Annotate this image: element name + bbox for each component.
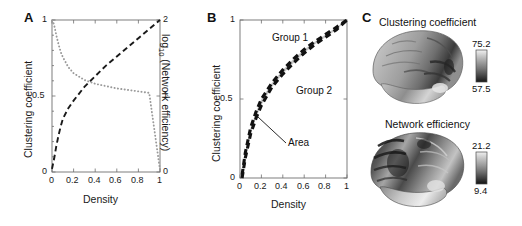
brain-map-title-clustering: Clustering coefficient bbox=[379, 16, 476, 28]
panel-b-xtick-04: 0.4 bbox=[275, 181, 288, 191]
panel-a-xlabel: Density bbox=[83, 193, 118, 205]
panel-a-ylabel-right-post: (Network efficiency) bbox=[160, 56, 172, 151]
panel-a-xtick-06: 0.6 bbox=[109, 175, 122, 185]
panel-b-label-group2: Group 2 bbox=[296, 85, 332, 96]
panel-a-ytick-right-0: 0 bbox=[163, 166, 168, 176]
brain-surface-clustering bbox=[373, 31, 463, 104]
panel-a-axes bbox=[52, 20, 160, 172]
panel-a-ylabel-right-pre: log bbox=[160, 34, 172, 48]
panel-b-axes bbox=[240, 20, 347, 178]
brain-map-title-efficiency: Network efficiency bbox=[385, 118, 470, 130]
panel-b-ylabel: Clustering coefficient bbox=[210, 65, 222, 162]
panel-b-xtick-02: 0.2 bbox=[254, 181, 267, 191]
panel-letter-c: C bbox=[362, 10, 371, 25]
panel-b-label-group1: Group 1 bbox=[272, 32, 308, 43]
colorbar-efficiency-min-label: 9.4 bbox=[474, 185, 487, 196]
panel-b-series-group1 bbox=[242, 20, 347, 175]
panel-b-area-leader-line bbox=[258, 117, 286, 143]
panel-b-xtick-0: 0 bbox=[237, 181, 242, 191]
panel-a-plot bbox=[0, 0, 522, 226]
colorbar-clustering bbox=[476, 50, 487, 82]
figure-canvas: A bbox=[0, 0, 522, 226]
panel-a-ylabel-left: Clustering coefficient bbox=[22, 61, 34, 158]
panel-b-xtick-06: 0.6 bbox=[297, 181, 310, 191]
panel-a-series-efficiency bbox=[53, 20, 161, 170]
panel-a-ytick-right-1: 1 bbox=[163, 90, 168, 100]
panel-c-brain-renders bbox=[0, 0, 522, 226]
panel-b-shaded-area bbox=[242, 20, 347, 178]
panel-a-xtick-0: 0 bbox=[49, 175, 54, 185]
panel-letter-a: A bbox=[24, 10, 33, 25]
panel-b-ytick-05: 0.5 bbox=[220, 93, 233, 103]
colorbar-clustering-min-label: 57.5 bbox=[472, 83, 491, 94]
panel-a-series-clustering bbox=[52, 20, 160, 169]
panel-b-xtick-08: 0.8 bbox=[318, 181, 331, 191]
colorbar-clustering-max-label: 75.2 bbox=[472, 38, 491, 49]
panel-b-label-area: Area bbox=[288, 137, 309, 148]
panel-a-ytick-05: 0.5 bbox=[32, 90, 45, 100]
brain-surface-efficiency bbox=[371, 133, 464, 207]
panel-a-xtick-08: 0.8 bbox=[131, 175, 144, 185]
panel-letter-b: B bbox=[207, 10, 216, 25]
panel-b-ytick-0: 0 bbox=[230, 172, 235, 182]
panel-a-ytick-0: 0 bbox=[42, 166, 47, 176]
panel-b-ytick-1: 1 bbox=[230, 14, 235, 24]
panel-a-xtick-02: 0.2 bbox=[66, 175, 79, 185]
panel-b-xlabel: Density bbox=[271, 198, 306, 210]
panel-a-ytick-1: 1 bbox=[42, 14, 47, 24]
panel-a-xtick-04: 0.4 bbox=[88, 175, 101, 185]
panel-a-xtick-1: 1 bbox=[157, 175, 162, 185]
panel-a-ytick-right-2: 2 bbox=[163, 14, 168, 24]
panel-b-xtick-1: 1 bbox=[344, 181, 349, 191]
panel-b-plot bbox=[0, 0, 522, 226]
colorbar-efficiency bbox=[476, 152, 487, 184]
colorbar-efficiency-max-label: 21.2 bbox=[472, 140, 491, 151]
panel-b-series-group2 bbox=[242, 20, 347, 178]
